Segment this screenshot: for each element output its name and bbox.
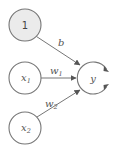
edge-label-b: b <box>58 37 64 48</box>
node-y-label: y <box>89 73 96 84</box>
output-arrow-bottom-icon <box>104 84 110 90</box>
node-y: y <box>77 62 109 94</box>
edge-label-w2: w2 <box>45 98 58 111</box>
node-bias: 1 <box>9 9 41 41</box>
perceptron-diagram: b w1 w2 1 x1 x2 y <box>0 0 118 153</box>
edge-x2-to-y <box>37 90 80 117</box>
node-x1: x1 <box>9 62 41 94</box>
node-bias-label: 1 <box>22 20 28 31</box>
node-x2: x2 <box>9 112 41 144</box>
edge-label-w1: w1 <box>50 65 63 78</box>
output-arrow-top-icon <box>104 66 110 72</box>
